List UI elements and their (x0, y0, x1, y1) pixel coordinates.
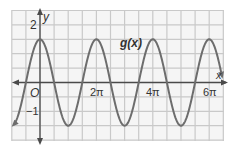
y-axis-label: y (42, 10, 50, 24)
x-tick-label-4pi: 4π (146, 86, 160, 98)
x-axis-right-arrow-icon (221, 80, 228, 86)
y-tick-label-2: 2 (30, 18, 37, 32)
cosine-graph: y x 2 −1 O 2π 4π 6π g(x) (0, 0, 232, 152)
origin-label: O (30, 86, 39, 100)
x-tick-label-6pi: 6π (203, 86, 217, 98)
y-tick-label-neg1: −1 (26, 105, 39, 117)
function-label: g(x) (119, 36, 142, 50)
y-axis-down-arrow-icon (37, 138, 43, 145)
x-axis-label: x (215, 69, 222, 81)
grid-background (12, 10, 224, 141)
x-tick-label-2pi: 2π (90, 86, 104, 98)
